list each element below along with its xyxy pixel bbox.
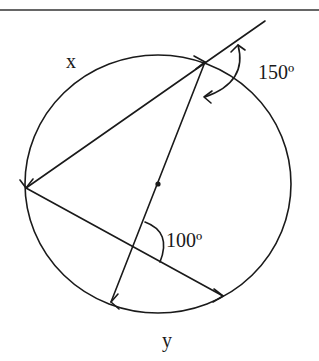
center-point xyxy=(155,181,160,186)
arc-x-label: x xyxy=(66,50,76,72)
arc-y-label: y xyxy=(162,329,172,352)
angle-150-label: 150º xyxy=(258,61,294,83)
angle-100-arc xyxy=(145,222,164,262)
angle-150-arrowhead-bottom xyxy=(204,91,212,103)
angle-150-arrowhead-top xyxy=(231,45,245,52)
angle-100-label: 100º xyxy=(166,229,202,251)
secant-line-ba xyxy=(26,21,265,188)
circle-geometry-diagram: x y 150º 100º xyxy=(0,0,319,361)
